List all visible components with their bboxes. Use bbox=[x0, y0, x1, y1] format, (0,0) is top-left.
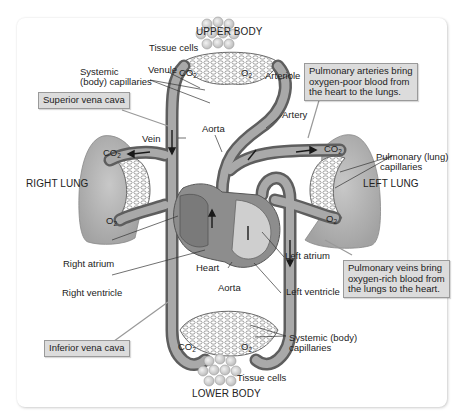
o2-lower-label: O2 bbox=[241, 342, 252, 353]
co2-right-lung-label: CO2 bbox=[103, 148, 121, 159]
o2-right-lung-label: O2 bbox=[106, 216, 117, 227]
left-atrium-label: Left atrium bbox=[285, 251, 330, 262]
co2-left-lung-label: CO2 bbox=[324, 144, 342, 155]
left-lung-label: LEFT LUNG bbox=[363, 179, 419, 190]
tissue-cells-lower-label: Tissue cells bbox=[237, 373, 286, 384]
systemic-capillaries-lower-label-2: capillaries bbox=[289, 343, 331, 354]
upper-body-label: UPPER BODY bbox=[196, 27, 263, 38]
artery-label: Artery bbox=[282, 110, 307, 121]
o2-upper-label: O2 bbox=[241, 68, 252, 79]
heart-label: Heart bbox=[196, 263, 219, 274]
systemic-capillaries-upper-label-2: (body) capillaries bbox=[80, 77, 152, 88]
right-lung-label: RIGHT LUNG bbox=[26, 179, 89, 190]
lower-body-label: LOWER BODY bbox=[192, 389, 261, 400]
arteriole-label: Arteriole bbox=[265, 71, 300, 82]
tissue-cells-upper-label: Tissue cells bbox=[149, 43, 198, 54]
superior-vena-cava-callout: Superior vena cava bbox=[38, 92, 130, 109]
tissue-cells-lower bbox=[198, 354, 241, 386]
co2-upper-label: CO2 bbox=[179, 68, 197, 79]
pulmonary-arteries-callout: Pulmonary arteries bring oxygen-poor blo… bbox=[304, 63, 418, 101]
pulmonary-capillaries-label-2: capillaries bbox=[380, 162, 422, 173]
inferior-vena-cava-callout: Inferior vena cava bbox=[44, 340, 130, 357]
pulmonary-veins-callout: Pulmonary veins bring oxygen-rich blood … bbox=[343, 260, 450, 298]
vein-label: Vein bbox=[142, 134, 161, 145]
co2-lower-label: CO2 bbox=[178, 342, 196, 353]
o2-left-lung-label: O2 bbox=[326, 214, 337, 225]
aorta-lower-label: Aorta bbox=[218, 283, 241, 294]
upper-systemic-capillaries bbox=[183, 52, 278, 84]
aorta-upper-label: Aorta bbox=[202, 124, 225, 135]
left-ventricle-label: Left ventricle bbox=[286, 287, 340, 298]
venule-label: Venule bbox=[148, 65, 177, 76]
right-ventricle-label: Right ventricle bbox=[62, 288, 122, 299]
right-atrium-label: Right atrium bbox=[63, 259, 114, 270]
